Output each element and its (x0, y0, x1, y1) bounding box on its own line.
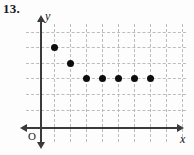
data-point (83, 75, 90, 82)
data-point (147, 75, 154, 82)
x-axis-left-arrow-icon (20, 124, 27, 132)
coordinate-plane: y x O (0, 0, 194, 155)
gridline-horizontal (26, 32, 186, 33)
y-axis-down-arrow-icon (37, 142, 45, 149)
gridline-horizontal (26, 110, 186, 111)
x-axis-right-arrow-icon (177, 124, 184, 132)
gridline-vertical (166, 24, 167, 142)
x-axis-label: x (180, 133, 185, 145)
y-axis (40, 22, 42, 142)
data-point (131, 75, 138, 82)
gridline-horizontal (26, 94, 186, 95)
data-point (51, 44, 58, 51)
data-point (115, 75, 122, 82)
gridline-vertical (118, 24, 119, 142)
origin-label: O (28, 131, 36, 142)
scatter-plot-figure: 13. y x O (0, 0, 194, 155)
y-axis-up-arrow-icon (37, 15, 45, 22)
gridline-vertical (134, 24, 135, 142)
gridline-vertical (150, 24, 151, 142)
y-axis-label: y (45, 10, 50, 22)
data-point (99, 75, 106, 82)
x-axis (26, 127, 178, 129)
gridline-vertical (102, 24, 103, 142)
gridline-vertical (86, 24, 87, 142)
gridline-vertical (54, 24, 55, 142)
gridline-horizontal (26, 63, 186, 64)
gridline-horizontal (26, 78, 186, 79)
data-point (67, 60, 74, 67)
gridline-vertical (70, 24, 71, 142)
